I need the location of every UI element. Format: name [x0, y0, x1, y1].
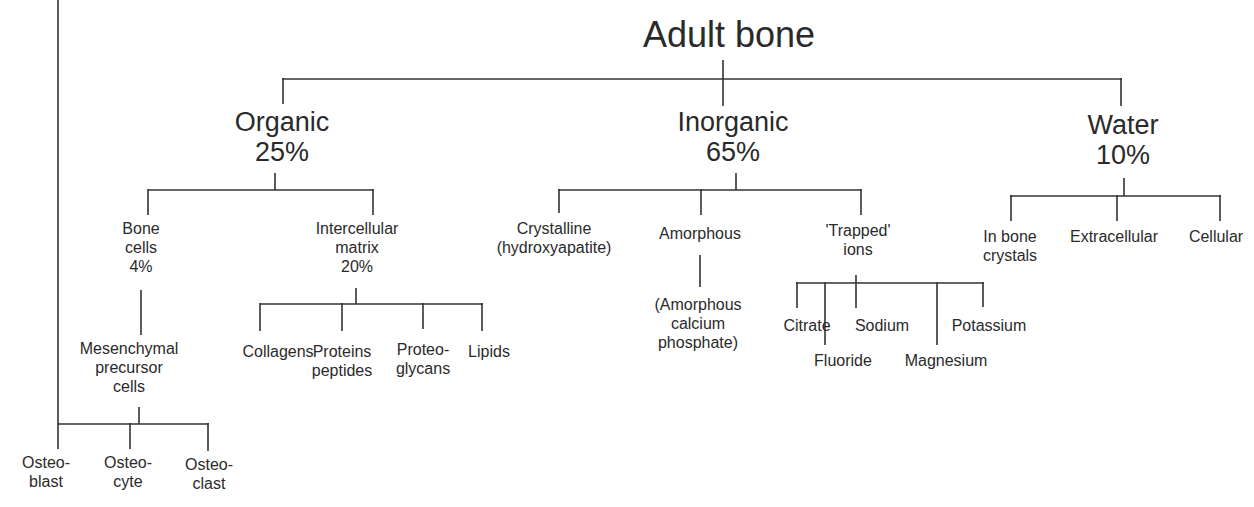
bone-cells-line2: cells — [122, 238, 159, 257]
node-mesenchymal-precursor-cells: Mesenchymal precursor cells — [80, 339, 179, 397]
inorganic-percent: 65% — [677, 137, 788, 167]
root-title: Adult bone — [643, 17, 815, 53]
matrix-line2: matrix — [316, 238, 399, 257]
matrix-line1: Intercellular — [316, 219, 399, 238]
root-node-adult-bone: Adult bone — [643, 17, 815, 53]
node-intercellular-matrix: Intercellular matrix 20% — [316, 219, 399, 277]
mesenchymal-line3: cells — [80, 377, 179, 396]
node-trapped-ions: 'Trapped' ions — [825, 221, 890, 259]
node-sodium: Sodium — [855, 316, 909, 335]
organic-label: Organic — [235, 107, 330, 137]
amorphous-label: Amorphous — [659, 224, 741, 243]
node-organic: Organic 25% — [235, 107, 330, 167]
acp-line3: phosphate) — [654, 333, 741, 352]
tree-connectors — [0, 0, 1254, 507]
proteoglycans-line1: Proteo- — [396, 340, 450, 359]
water-percent: 10% — [1087, 140, 1158, 170]
fluoride-label: Fluoride — [814, 351, 872, 370]
acp-line1: (Amorphous — [654, 295, 741, 314]
node-inorganic: Inorganic 65% — [677, 107, 788, 167]
node-in-bone-crystals: In bone crystals — [983, 227, 1037, 265]
bone-cells-percent: 4% — [122, 257, 159, 276]
node-amorphous-calcium-phosphate: (Amorphous calcium phosphate) — [654, 295, 741, 353]
node-lipids: Lipids — [468, 342, 510, 361]
bone-cells-line1: Bone — [122, 219, 159, 238]
node-fluoride: Fluoride — [814, 351, 872, 370]
in-bone-crystals-line1: In bone — [983, 227, 1037, 246]
mesenchymal-line1: Mesenchymal — [80, 339, 179, 358]
node-collagens: Collagens — [242, 342, 313, 361]
in-bone-crystals-line2: crystals — [983, 246, 1037, 265]
node-cellular: Cellular — [1189, 227, 1243, 246]
bone-composition-diagram: Adult bone Organic 25% Inorganic 65% Wat… — [0, 0, 1254, 507]
node-citrate: Citrate — [783, 316, 830, 335]
node-bone-cells: Bone cells 4% — [122, 219, 159, 277]
osteoblast-line2: blast — [22, 472, 70, 491]
inorganic-label: Inorganic — [677, 107, 788, 137]
node-amorphous: Amorphous — [659, 224, 741, 243]
cellular-label: Cellular — [1189, 227, 1243, 246]
lipids-label: Lipids — [468, 342, 510, 361]
node-crystalline: Crystalline (hydroxyapatite) — [497, 219, 612, 257]
node-extracellular: Extracellular — [1070, 227, 1158, 246]
osteoblast-line1: Osteo- — [22, 453, 70, 472]
collagens-label: Collagens — [242, 342, 313, 361]
node-water: Water 10% — [1087, 110, 1158, 170]
crystalline-line2: (hydroxyapatite) — [497, 238, 612, 257]
node-proteoglycans: Proteo- glycans — [396, 340, 450, 378]
acp-line2: calcium — [654, 314, 741, 333]
extracellular-label: Extracellular — [1070, 227, 1158, 246]
node-proteins-peptides: Proteins peptides — [312, 342, 373, 380]
node-potassium: Potassium — [952, 316, 1027, 335]
node-magnesium: Magnesium — [905, 351, 988, 370]
osteocyte-line1: Osteo- — [104, 453, 152, 472]
sodium-label: Sodium — [855, 316, 909, 335]
proteins-line1: Proteins — [312, 342, 373, 361]
trapped-ions-line1: 'Trapped' — [825, 221, 890, 240]
potassium-label: Potassium — [952, 316, 1027, 335]
proteins-line2: peptides — [312, 361, 373, 380]
node-osteocyte: Osteo- cyte — [104, 453, 152, 491]
citrate-label: Citrate — [783, 316, 830, 335]
osteoclast-line1: Osteo- — [185, 455, 233, 474]
trapped-ions-line2: ions — [825, 240, 890, 259]
mesenchymal-line2: precursor — [80, 358, 179, 377]
organic-percent: 25% — [235, 137, 330, 167]
matrix-percent: 20% — [316, 257, 399, 276]
water-label: Water — [1087, 110, 1158, 140]
osteocyte-line2: cyte — [104, 472, 152, 491]
crystalline-line1: Crystalline — [497, 219, 612, 238]
proteoglycans-line2: glycans — [396, 359, 450, 378]
magnesium-label: Magnesium — [905, 351, 988, 370]
osteoclast-line2: clast — [185, 474, 233, 493]
node-osteoclast: Osteo- clast — [185, 455, 233, 493]
node-osteoblast: Osteo- blast — [22, 453, 70, 491]
